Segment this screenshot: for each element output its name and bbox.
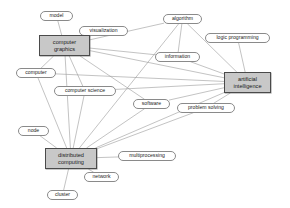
graph-node-logic-programming[interactable]: logic programming (205, 33, 270, 43)
graph-node-label: logic programming (216, 35, 258, 41)
graph-node-computer-graphics[interactable]: computergraphics (39, 35, 90, 56)
graph-node-label: node (28, 128, 39, 134)
graph-edge-computer-science--artificial-intelligence (114, 84, 224, 90)
graph-node-label: visualization (89, 28, 117, 34)
graph-node-cluster[interactable]: cluster (47, 190, 78, 200)
graph-node-computer-science[interactable]: computer science (54, 86, 116, 96)
graph-edge-cluster--distributed-computing (64, 169, 69, 190)
graph-node-label-line: intelligence (234, 83, 262, 90)
graph-node-multiprocessing[interactable]: multiprocessing (118, 151, 176, 161)
graph-node-node-left[interactable]: node (18, 126, 49, 136)
graph-edge-computer--computer-graphics (41, 56, 54, 68)
graph-node-label: algorithm (172, 16, 193, 22)
graph-edge-algorithm--information (178, 24, 182, 53)
graph-edge-computer-graphics--distributed-computing (65, 56, 70, 148)
graph-edge-model--computer-graphics (58, 21, 62, 35)
graph-edge-logic-programming--artificial-intelligence (239, 43, 246, 72)
graph-edge-information--computer-graphics (90, 48, 156, 55)
concept-graph-canvas: modelvisualizationalgorithmlogic program… (0, 0, 290, 208)
graph-node-label: multiprocessing (129, 153, 165, 159)
graph-node-software[interactable]: software (133, 99, 170, 109)
graph-edge-algorithm--artificial-intelligence (187, 24, 236, 72)
graph-node-label: computergraphics (53, 39, 76, 52)
graph-node-label: model (50, 13, 64, 19)
graph-node-label: network (93, 174, 111, 180)
graph-node-label-line: computing (58, 159, 84, 166)
graph-edge-node-left--distributed-computing (40, 136, 57, 148)
graph-node-label: computer science (65, 88, 105, 94)
graph-edge-problem-solving--artificial-intelligence (214, 93, 231, 103)
graph-node-information[interactable]: information (155, 52, 200, 62)
graph-edge-information--artificial-intelligence (190, 62, 224, 74)
graph-edge-computer--artificial-intelligence (55, 74, 224, 82)
graph-node-label: cluster (55, 192, 70, 198)
graph-edge-computer-science--distributed-computing (73, 96, 84, 148)
graph-edge-computer-science--computer-graphics (69, 56, 83, 86)
graph-node-label-line: artificial (238, 76, 257, 83)
graph-node-artificial-intelligence[interactable]: artificialintelligence (224, 72, 271, 93)
graph-node-label: information (165, 54, 190, 60)
graph-node-label: software (142, 101, 161, 107)
graph-node-distributed-computing[interactable]: distributedcomputing (45, 148, 97, 169)
graph-node-label-line: distributed (58, 152, 84, 159)
graph-node-label-line: graphics (54, 46, 75, 53)
graph-node-model[interactable]: model (40, 11, 73, 21)
graph-edge-software--artificial-intelligence (169, 88, 224, 100)
graph-edge-multiprocessing--distributed-computing (97, 157, 120, 158)
graph-node-problem-solving[interactable]: problem solving (177, 103, 235, 113)
graph-node-label: distributedcomputing (58, 152, 84, 165)
graph-node-computer[interactable]: computer (16, 68, 56, 78)
graph-node-label: computer (25, 70, 46, 76)
graph-edge-software--distributed-computing (87, 109, 145, 148)
graph-node-algorithm[interactable]: algorithm (163, 14, 202, 24)
graph-node-label: artificialintelligence (234, 76, 262, 89)
graph-node-network[interactable]: network (84, 172, 119, 182)
graph-edge-problem-solving--distributed-computing (97, 113, 193, 149)
graph-node-label-line: computer (53, 39, 76, 46)
graph-node-label: problem solving (188, 105, 224, 111)
